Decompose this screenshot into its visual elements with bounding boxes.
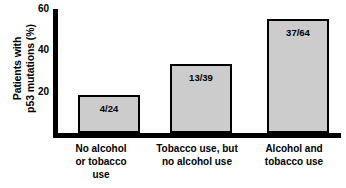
bar: 13/39 xyxy=(170,64,232,133)
x-category-label: Tobacco use, but no alcohol use xyxy=(141,142,253,168)
bar-slot: 37/64 xyxy=(267,9,329,133)
x-category-label: No alcohol or tobacco use xyxy=(50,142,152,181)
y-axis-title: Patients with p53 mutations (%) xyxy=(11,0,36,144)
plot-area: 4/24 13/39 37/64 xyxy=(58,9,341,133)
bar-value-label: 4/24 xyxy=(80,103,138,114)
y-tick-label: 60 xyxy=(13,3,53,14)
y-tick-label: 20 xyxy=(13,86,53,97)
bar: 4/24 xyxy=(78,95,140,133)
bar-chart: Patients with p53 mutations (%) 20 40 60… xyxy=(0,0,346,188)
bar-value-label: 37/64 xyxy=(269,27,327,38)
x-axis-line xyxy=(53,133,341,138)
bar-slot: 13/39 xyxy=(170,9,232,133)
bar: 37/64 xyxy=(267,19,329,133)
y-tick-label: 40 xyxy=(13,44,53,55)
bar-value-label: 13/39 xyxy=(172,72,230,83)
x-category-label: Alcohol and tobacco use xyxy=(246,142,342,168)
bar-slot: 4/24 xyxy=(78,9,140,133)
